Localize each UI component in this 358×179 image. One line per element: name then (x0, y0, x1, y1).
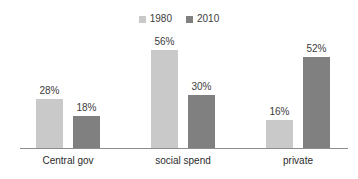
bar-value-label: 52% (306, 44, 326, 54)
bar-social-spend-2010: 30% (188, 95, 215, 148)
bar-value-label: 16% (269, 107, 289, 117)
x-axis-line (20, 148, 348, 149)
x-axis-label-social-spend: social spend (155, 155, 211, 167)
bar-private-2010: 52% (303, 57, 330, 148)
x-axis-label-private: private (283, 155, 313, 167)
bar-value-label: 18% (76, 103, 96, 113)
bar-chart: 1980 2010 28% 18% 56% 30% 16% 52% Centra… (0, 0, 358, 179)
bar-central-gov-2010: 18% (73, 116, 100, 148)
bar-private-1980: 16% (266, 120, 293, 148)
plot-area: 28% 18% 56% 30% 16% 52% Central gov soci… (0, 0, 358, 179)
bar-value-label: 28% (39, 86, 59, 96)
bar-central-gov-1980: 28% (36, 99, 63, 148)
bar-social-spend-1980: 56% (151, 50, 178, 148)
x-axis-label-central-gov: Central gov (42, 155, 93, 167)
bar-value-label: 30% (191, 82, 211, 92)
bar-value-label: 56% (154, 37, 174, 47)
